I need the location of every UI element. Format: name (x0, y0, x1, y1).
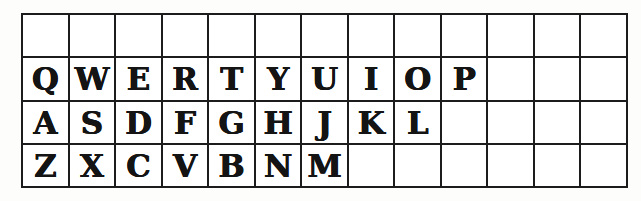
ornate-letter: D (125, 106, 152, 139)
letter-cell-z: Z (23, 145, 68, 186)
ornate-letter: L (407, 106, 429, 139)
ornate-letter: U (311, 63, 338, 96)
empty-cell (70, 15, 115, 56)
empty-cell (209, 15, 254, 56)
letter-cell-r: R (163, 58, 208, 99)
letter-cell-h: H (256, 102, 301, 143)
letter-cell-d: D (116, 102, 161, 143)
ornate-letter: R (172, 63, 198, 96)
ornate-letter-grid: QWERTYUIOPASDFGHJKLZXCVBNM (21, 13, 628, 188)
empty-cell (163, 15, 208, 56)
empty-cell (535, 58, 580, 99)
ornate-letter: K (358, 106, 385, 139)
ornate-letter: W (74, 63, 109, 96)
ornate-letter: O (404, 63, 431, 96)
empty-cell (23, 15, 68, 56)
empty-cell (116, 15, 161, 56)
letter-cell-t: T (209, 58, 254, 99)
letter-cell-i: I (349, 58, 394, 99)
empty-cell (488, 15, 533, 56)
letter-cell-c: C (116, 145, 161, 186)
letter-cell-m: M (302, 145, 347, 186)
empty-cell (581, 145, 626, 186)
ornate-letter: H (263, 106, 292, 139)
ornate-letter: C (126, 149, 151, 182)
ornate-letter: J (317, 106, 332, 139)
empty-cell (442, 145, 487, 186)
empty-cell (442, 15, 487, 56)
letter-cell-g: G (209, 102, 254, 143)
empty-cell (442, 102, 487, 143)
empty-cell (488, 102, 533, 143)
ornate-letter: Q (32, 63, 59, 96)
letter-cell-y: Y (256, 58, 301, 99)
letter-cell-v: V (163, 145, 208, 186)
ornate-letter: B (218, 149, 244, 182)
letter-cell-p: P (442, 58, 487, 99)
letter-cell-a: A (23, 102, 68, 143)
letter-cell-b: B (209, 145, 254, 186)
ornate-letter: T (220, 63, 243, 96)
letter-cell-w: W (70, 58, 115, 99)
letter-cell-k: K (349, 102, 394, 143)
empty-cell (302, 15, 347, 56)
empty-cell (395, 145, 440, 186)
letter-cell-s: S (70, 102, 115, 143)
letter-cell-o: O (395, 58, 440, 99)
ornate-letter: I (364, 63, 379, 96)
empty-cell (581, 102, 626, 143)
letter-cell-u: U (302, 58, 347, 99)
ornate-letter: M (307, 149, 341, 182)
letter-cell-n: N (256, 145, 301, 186)
empty-cell (535, 102, 580, 143)
letter-cell-l: L (395, 102, 440, 143)
empty-cell (349, 145, 394, 186)
letter-cell-e: E (116, 58, 161, 99)
ornate-letter: N (264, 149, 292, 182)
empty-cell (488, 58, 533, 99)
ornate-letter: V (173, 149, 197, 182)
letter-cell-x: X (70, 145, 115, 186)
ornate-letter: E (127, 63, 151, 96)
letter-cell-f: F (163, 102, 208, 143)
empty-cell (349, 15, 394, 56)
empty-cell (535, 145, 580, 186)
ornate-letter: Y (267, 63, 289, 96)
ornate-letter: S (81, 106, 103, 139)
ornate-letter: A (33, 106, 57, 139)
ornate-letter: Z (34, 149, 57, 182)
empty-cell (535, 15, 580, 56)
ornate-letter: F (174, 106, 196, 139)
empty-cell (581, 58, 626, 99)
empty-cell (256, 15, 301, 56)
letter-cell-j: J (302, 102, 347, 143)
letter-cell-q: Q (23, 58, 68, 99)
ornate-letter: P (452, 63, 475, 96)
ornate-letter: G (218, 106, 244, 139)
ornate-letter: X (80, 149, 104, 182)
empty-cell (395, 15, 440, 56)
empty-cell (488, 145, 533, 186)
empty-cell (581, 15, 626, 56)
